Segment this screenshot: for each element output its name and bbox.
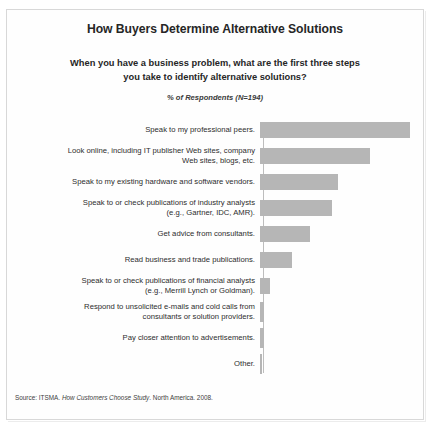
- source-prefix: Source: ITSMA.: [15, 394, 62, 401]
- bar-track: [259, 299, 424, 325]
- bar: [260, 252, 292, 268]
- bar-track: [259, 143, 424, 169]
- bar-row: Speak to my professional peers.: [6, 117, 424, 143]
- source-suffix: . North America. 2008.: [149, 394, 213, 401]
- bar-row: Get advice from consultants.: [6, 221, 424, 247]
- bar: [260, 148, 370, 164]
- bar-row-label: Respond to unsolicited e-mails and cold …: [6, 302, 259, 321]
- bar-row: Pay closer attention to advertisements.: [6, 325, 424, 351]
- bar-row-label-line-1: Respond to unsolicited e-mails and cold …: [84, 302, 255, 311]
- bar-row-label-line-2: (e.g., Gartner, IDC, AMR).: [6, 208, 255, 218]
- bar-row-label-line-1: Other.: [234, 359, 255, 368]
- bar-row-label-line-1: Speak to my existing hardware and softwa…: [72, 177, 255, 186]
- bar-row: Speak to or check publications of indust…: [6, 195, 424, 221]
- bar-row-label: Get advice from consultants.: [6, 229, 259, 239]
- bar: [260, 302, 264, 322]
- bar-row-label: Speak to my existing hardware and softwa…: [6, 177, 259, 187]
- bar-track: [259, 273, 424, 299]
- figure-inner: How Buyers Determine Alternative Solutio…: [6, 9, 424, 420]
- bar-row-label-line-1: Speak to my professional peers.: [145, 125, 255, 134]
- bar-track: [259, 195, 424, 221]
- bar-row: Read business and trade publications.: [6, 247, 424, 273]
- bar: [260, 226, 310, 242]
- chart-subtitle-line-1: When you have a business problem, what a…: [70, 58, 360, 68]
- bar-track: [259, 351, 424, 377]
- bar-row-label: Speak to or check publications of financ…: [6, 276, 259, 295]
- bar-row-label-line-1: Get advice from consultants.: [158, 229, 255, 238]
- bar-row-label: Look online, including IT publisher Web …: [6, 146, 259, 165]
- bar-row: Other.: [6, 351, 424, 377]
- bar-row-label: Speak to or check publications of indust…: [6, 198, 259, 217]
- bar-row-label-line-1: Look online, including IT publisher Web …: [68, 146, 255, 155]
- bar-track: [259, 247, 424, 273]
- chart-title: How Buyers Determine Alternative Solutio…: [6, 22, 424, 36]
- bar-row: Speak to or check publications of financ…: [6, 273, 424, 299]
- bar-row-label-line-1: Read business and trade publications.: [125, 255, 255, 264]
- chart-respondents-note: % of Respondents (N=194): [6, 93, 424, 102]
- bar-row-label-line-1: Speak to or check publications of indust…: [83, 198, 255, 207]
- plot-area: Speak to my professional peers.Look onli…: [6, 117, 424, 381]
- bar: [260, 174, 338, 190]
- bar: [260, 200, 332, 216]
- bar-row-label-line-2: consultants or solution providers.: [6, 312, 255, 322]
- source-study-title: How Customers Choose Study: [62, 394, 149, 401]
- bar-row-label: Read business and trade publications.: [6, 255, 259, 265]
- bar: [260, 354, 262, 374]
- bar-track: [259, 221, 424, 247]
- bar-track: [259, 325, 424, 351]
- bar-row-label-line-1: Pay closer attention to advertisements.: [123, 333, 255, 342]
- bar-row: Speak to my existing hardware and softwa…: [6, 169, 424, 195]
- bar-track: [259, 117, 424, 143]
- bar-track: [259, 169, 424, 195]
- bar-row-label-line-1: Speak to or check publications of financ…: [82, 276, 256, 285]
- source-caption: Source: ITSMA. How Customers Choose Stud…: [15, 394, 213, 401]
- bar-row-label: Pay closer attention to advertisements.: [6, 333, 259, 343]
- bar-row: Respond to unsolicited e-mails and cold …: [6, 299, 424, 325]
- figure-root: How Buyers Determine Alternative Solutio…: [0, 0, 432, 432]
- bar: [260, 328, 264, 348]
- chart-subtitle-line-2: you take to identify alternative solutio…: [123, 72, 306, 82]
- bar-row-label-line-2: (e.g., Merrill Lynch or Goldman).: [6, 286, 255, 296]
- bar: [260, 278, 270, 294]
- bar: [260, 122, 410, 138]
- bar-row: Look online, including IT publisher Web …: [6, 143, 424, 169]
- bar-row-label: Speak to my professional peers.: [6, 125, 259, 135]
- bar-row-list: Speak to my professional peers.Look onli…: [6, 117, 424, 377]
- bar-row-label: Other.: [6, 359, 259, 369]
- bar-row-label-line-2: Web sites, blogs, etc.: [6, 156, 255, 166]
- chart-subtitle: When you have a business problem, what a…: [36, 57, 394, 84]
